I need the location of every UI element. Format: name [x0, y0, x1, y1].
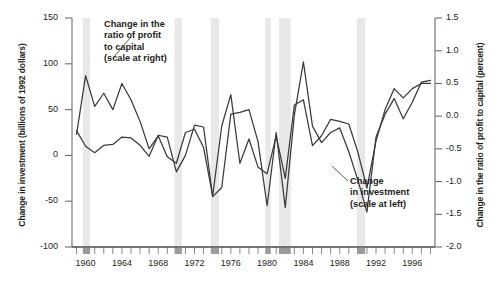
y-axis-left-tick-label: 50	[18, 104, 58, 114]
annotation-line: Change	[350, 176, 409, 187]
annotation-line: ratio of profit	[104, 30, 167, 41]
y-axis-right-tick-label: -1.5	[446, 208, 486, 218]
x-axis-tick-label: 1960	[66, 258, 106, 268]
x-axis-tick-label: 1968	[138, 258, 178, 268]
recession-marker	[357, 248, 365, 254]
annotation-line: (scale at left)	[350, 199, 409, 210]
recession-marker	[279, 248, 291, 254]
x-axis-tick-label: 1988	[320, 258, 360, 268]
y-axis-right-tick-label: 1.0	[446, 45, 486, 55]
recession-band	[175, 18, 182, 247]
y-axis-left-tick-label: 150	[18, 12, 58, 22]
recession-band	[265, 18, 270, 247]
recession-marker	[83, 248, 90, 254]
x-axis-tick-label: 1992	[356, 258, 396, 268]
y-axis-left-tick-label: 0	[18, 149, 58, 159]
recession-band	[357, 18, 365, 247]
profit-series-annotation: Change in theratio of profitto capital(s…	[104, 19, 167, 65]
annotation-leader-line	[332, 166, 348, 181]
recession-marker	[265, 248, 270, 254]
y-axis-left-tick-label: -100	[18, 241, 58, 251]
y-axis-left-tick-label: -50	[18, 195, 58, 205]
x-axis-tick-label: 1996	[392, 258, 432, 268]
investment-series-annotation: Changein investment(scale at left)	[350, 176, 409, 210]
annotation-line: to capital	[104, 42, 167, 53]
recession-band	[279, 18, 291, 247]
y-axis-right-tick-label: -1.0	[446, 176, 486, 186]
y-axis-right-tick-label: 1.5	[446, 12, 486, 22]
recession-marker	[211, 248, 219, 254]
plot-canvas	[0, 0, 504, 290]
x-axis-tick-label: 1964	[102, 258, 142, 268]
y-axis-right-tick-label: -0.5	[446, 143, 486, 153]
y-axis-left-tick-label: 100	[18, 58, 58, 68]
annotation-line: Change in the	[104, 19, 167, 30]
y-axis-right-tick-label: 0.0	[446, 110, 486, 120]
recession-band	[83, 18, 90, 247]
y-axis-right-tick-label: -2.0	[446, 241, 486, 251]
y-axis-right-tick-label: 0.5	[446, 77, 486, 87]
annotation-line: in investment	[350, 187, 409, 198]
annotation-line: (scale at right)	[104, 53, 167, 64]
recession-marker	[175, 248, 182, 254]
chart-figure: Change in investment (billions of 1992 d…	[0, 0, 504, 290]
x-axis-tick-label: 1984	[283, 258, 323, 268]
recession-band	[211, 18, 219, 247]
x-axis-tick-label: 1980	[247, 258, 287, 268]
x-axis-tick-label: 1972	[175, 258, 215, 268]
x-axis-tick-label: 1976	[211, 258, 251, 268]
